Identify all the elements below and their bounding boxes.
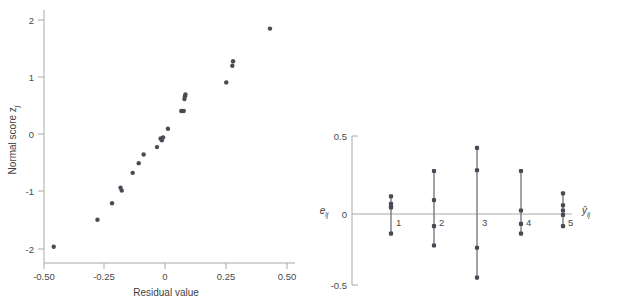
residual-point bbox=[475, 275, 479, 279]
right-axes bbox=[352, 136, 572, 285]
right-ytick-label-0: 0 bbox=[342, 209, 347, 220]
group-label-1: 1 bbox=[396, 217, 401, 228]
left-ytick-label-neg1: -1 bbox=[26, 186, 34, 197]
normal-probability-plot-svg: 2 1 0 -1 -2 -0.50 -0.25 0 0.25 0.50 Resi… bbox=[0, 0, 310, 301]
residual-point bbox=[519, 222, 523, 226]
group-label-4: 4 bbox=[526, 217, 531, 228]
residual-point bbox=[561, 191, 565, 195]
residual-point bbox=[561, 203, 565, 207]
scatter-point bbox=[230, 64, 234, 68]
left-ytick-label-0: 0 bbox=[29, 129, 34, 140]
residual-point bbox=[389, 205, 393, 209]
residual-point bbox=[519, 232, 523, 236]
residual-groups: 12345 bbox=[389, 146, 573, 280]
residuals-vs-fitted-svg: 0.5 0 -0.5 eij ŷij 12345 bbox=[310, 0, 619, 301]
residual-point bbox=[389, 232, 393, 236]
scatter-point bbox=[155, 145, 159, 149]
residual-point bbox=[475, 168, 479, 172]
group-label-2: 2 bbox=[439, 217, 444, 228]
residual-point bbox=[432, 243, 436, 247]
residual-point bbox=[561, 213, 565, 217]
residual-point bbox=[475, 146, 479, 150]
normal-probability-plot-panel: 2 1 0 -1 -2 -0.50 -0.25 0 0.25 0.50 Resi… bbox=[0, 0, 310, 301]
scatter-point bbox=[110, 201, 114, 205]
right-xaxis-title: ŷij bbox=[581, 205, 591, 219]
scatter-point bbox=[137, 161, 141, 165]
residuals-vs-fitted-panel: 0.5 0 -0.5 eij ŷij 12345 bbox=[310, 0, 619, 301]
right-yaxis-title: eij bbox=[320, 205, 329, 219]
scatter-point bbox=[52, 245, 56, 249]
scatter-point bbox=[231, 59, 235, 63]
left-ytick-label-1: 1 bbox=[29, 72, 34, 83]
left-xaxis-title: Residual value bbox=[133, 287, 199, 298]
scatter-point bbox=[182, 109, 186, 113]
left-ytick-label-neg2: -2 bbox=[26, 244, 34, 255]
residual-point bbox=[519, 208, 523, 212]
residual-point bbox=[475, 246, 479, 250]
residual-point bbox=[432, 198, 436, 202]
scatter-point bbox=[120, 188, 124, 192]
scatter-point bbox=[130, 171, 134, 175]
residual-point bbox=[432, 169, 436, 173]
right-xaxis-title-sub: ij bbox=[587, 211, 591, 219]
right-yaxis-title-sub: ij bbox=[325, 211, 329, 219]
residual-point bbox=[561, 224, 565, 228]
right-ytick-label-05: 0.5 bbox=[334, 131, 347, 142]
scatter-point bbox=[141, 152, 145, 156]
figure-root: 2 1 0 -1 -2 -0.50 -0.25 0 0.25 0.50 Resi… bbox=[0, 0, 619, 301]
scatter-point bbox=[95, 218, 99, 222]
scatter-point bbox=[161, 135, 165, 139]
left-yaxis-title-sub: j bbox=[13, 105, 21, 108]
left-yaxis-title: Normal score zj bbox=[7, 105, 21, 174]
left-xtick-label-025: 0.25 bbox=[217, 271, 236, 282]
svg-text:Normal score zj: Normal score zj bbox=[7, 105, 21, 174]
residual-point bbox=[432, 224, 436, 228]
residual-point bbox=[389, 194, 393, 198]
scatter-point bbox=[268, 26, 272, 30]
scatter-point bbox=[183, 92, 187, 96]
left-xtick-label-0: 0 bbox=[162, 271, 167, 282]
left-y-ticks bbox=[38, 20, 44, 249]
scatter-point bbox=[224, 80, 228, 84]
left-yaxis-title-base: Normal score z bbox=[7, 107, 18, 174]
right-ytick-label-neg05: -0.5 bbox=[331, 280, 347, 291]
left-xtick-label-neg050: -0.50 bbox=[33, 271, 55, 282]
scatter-points-group bbox=[52, 26, 273, 249]
group-label-5: 5 bbox=[568, 217, 573, 228]
left-x-ticks bbox=[44, 263, 287, 269]
left-axes bbox=[44, 10, 295, 263]
residual-point bbox=[519, 169, 523, 173]
residual-point bbox=[561, 208, 565, 212]
left-xtick-label-neg025: -0.25 bbox=[93, 271, 115, 282]
scatter-point bbox=[166, 127, 170, 131]
group-label-3: 3 bbox=[482, 217, 487, 228]
left-ytick-label-2: 2 bbox=[29, 15, 34, 26]
left-xtick-label-050: 0.50 bbox=[278, 271, 297, 282]
